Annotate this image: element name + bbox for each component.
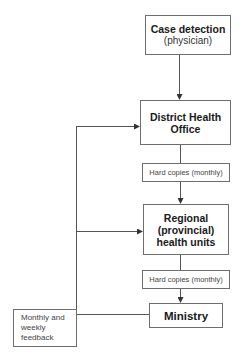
feedback-line1: Monthly and	[21, 313, 65, 323]
case-detection-node: Case detection (physician)	[145, 15, 231, 55]
hard-copies-1-text: Hard copies (monthly)	[149, 168, 222, 178]
district-title-line1: District Health	[150, 111, 221, 123]
feedback-line3: feedback	[21, 333, 53, 343]
hard-copies-label-2: Hard copies (monthly)	[142, 270, 230, 289]
regional-line3: health units	[157, 236, 216, 248]
ministry-title: Ministry	[164, 310, 208, 322]
case-detection-title: Case detection	[151, 23, 226, 35]
regional-line2: (provincial)	[158, 224, 215, 236]
ministry-node: Ministry	[149, 303, 223, 328]
hard-copies-label-1: Hard copies (monthly)	[142, 163, 230, 182]
feedback-node: Monthly and weekly feedback	[13, 309, 77, 347]
hard-copies-2-text: Hard copies (monthly)	[149, 275, 222, 285]
district-title-line2: Office	[171, 123, 201, 135]
regional-line1: Regional	[164, 212, 208, 224]
district-health-office-node: District Health Office	[140, 100, 231, 145]
case-detection-subtitle: (physician)	[164, 35, 212, 47]
feedback-line2: weekly	[21, 323, 45, 333]
regional-health-units-node: Regional (provincial) health units	[143, 204, 229, 255]
